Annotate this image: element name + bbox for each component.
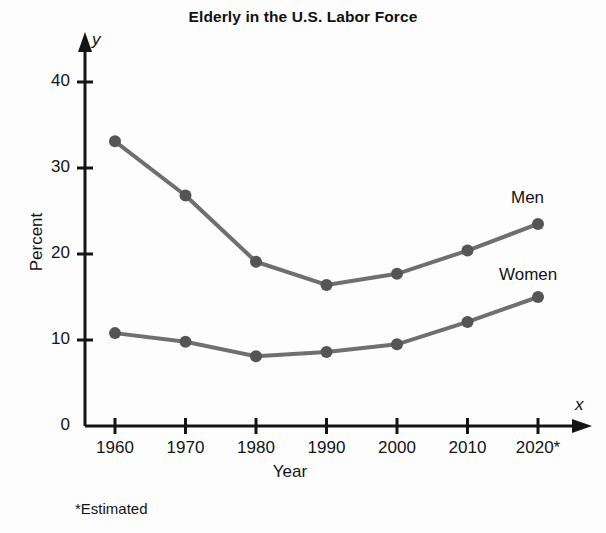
chart-figure: Elderly in the U.S. Labor Force y x Perc… — [0, 0, 606, 533]
x-axis-arrow-icon — [572, 419, 592, 433]
x-tick-label: 2000 — [357, 438, 437, 458]
data-point-women — [109, 327, 121, 339]
data-point-men — [532, 218, 544, 230]
y-tick-label: 0 — [20, 415, 70, 435]
y-tick-label: 40 — [20, 71, 70, 91]
data-point-women — [391, 338, 403, 350]
x-tick-label: 1980 — [216, 438, 296, 458]
y-axis-arrow-icon — [78, 32, 92, 52]
data-point-women — [462, 316, 474, 328]
data-point-men — [391, 268, 403, 280]
data-point-women — [321, 346, 333, 358]
data-point-men — [109, 135, 121, 147]
y-tick-label: 10 — [20, 329, 70, 349]
data-point-women — [250, 350, 262, 362]
x-tick-label: 2020* — [498, 438, 578, 458]
data-point-men — [321, 279, 333, 291]
y-tick-label: 20 — [20, 243, 70, 263]
data-point-men — [462, 245, 474, 257]
data-point-men — [180, 190, 192, 202]
x-tick-label: 1970 — [146, 438, 226, 458]
x-tick-label: 1960 — [75, 438, 155, 458]
series-line-men — [115, 141, 538, 285]
x-tick-label: 1990 — [287, 438, 367, 458]
y-tick-label: 30 — [20, 157, 70, 177]
data-point-women — [532, 291, 544, 303]
data-point-women — [180, 336, 192, 348]
data-point-men — [250, 256, 262, 268]
x-tick-label: 2010 — [428, 438, 508, 458]
data-series-group — [109, 135, 544, 362]
